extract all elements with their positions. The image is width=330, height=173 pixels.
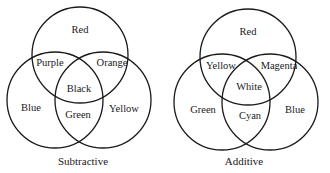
additive-center-label: White (236, 81, 262, 92)
additive-left-label: Green (190, 104, 216, 115)
additive-top-left-label: Yellow (206, 60, 236, 71)
subtractive-diagram: Red Purple Orange Black Blue Green Yello… (7, 7, 151, 167)
additive-right-label: Blue (285, 104, 305, 115)
subtractive-right-label: Yellow (109, 103, 139, 114)
additive-bottom-label: Cyan (239, 110, 262, 121)
subtractive-left-label: Blue (21, 102, 41, 113)
additive-diagram: Red Yellow Magenta White Green Cyan Blue… (174, 9, 318, 167)
subtractive-center-label: Black (67, 83, 92, 94)
subtractive-top-right-label: Orange (97, 57, 128, 68)
additive-caption: Additive (225, 155, 264, 167)
subtractive-top-left-label: Purple (36, 57, 64, 68)
additive-top-label: Red (240, 26, 258, 37)
color-venn-diagrams: Red Purple Orange Black Blue Green Yello… (0, 0, 330, 173)
additive-top-right-label: Magenta (261, 60, 298, 71)
subtractive-caption: Subtractive (58, 155, 108, 167)
subtractive-top-label: Red (72, 24, 90, 35)
subtractive-bottom-label: Green (65, 109, 91, 120)
